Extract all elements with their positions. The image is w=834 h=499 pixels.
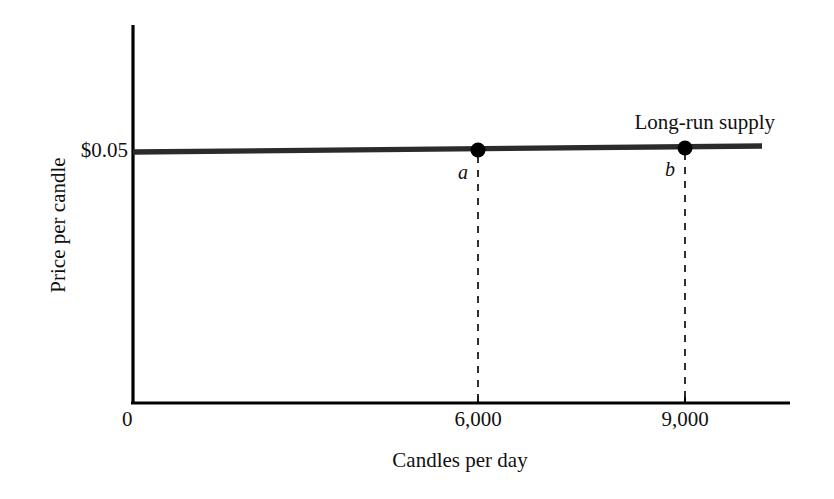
x-axis-tick-label-9000: 9,000 xyxy=(661,409,708,430)
economics-supply-chart: $0.05 0 6,000 9,000 Candles per day Pric… xyxy=(0,0,834,499)
data-point-b-label: b xyxy=(665,159,675,179)
x-axis-title: Candles per day xyxy=(392,450,527,471)
data-point-a-label: a xyxy=(458,162,468,182)
origin-label: 0 xyxy=(122,409,133,430)
supply-curve-annotation: Long-run supply xyxy=(634,112,775,133)
data-point-b-marker xyxy=(678,141,693,156)
y-axis-tick-label: $0.05 xyxy=(81,140,128,161)
data-point-a-marker xyxy=(471,143,486,158)
x-axis-tick-label-6000: 6,000 xyxy=(454,409,501,430)
y-axis-title: Price per candle xyxy=(48,157,69,292)
